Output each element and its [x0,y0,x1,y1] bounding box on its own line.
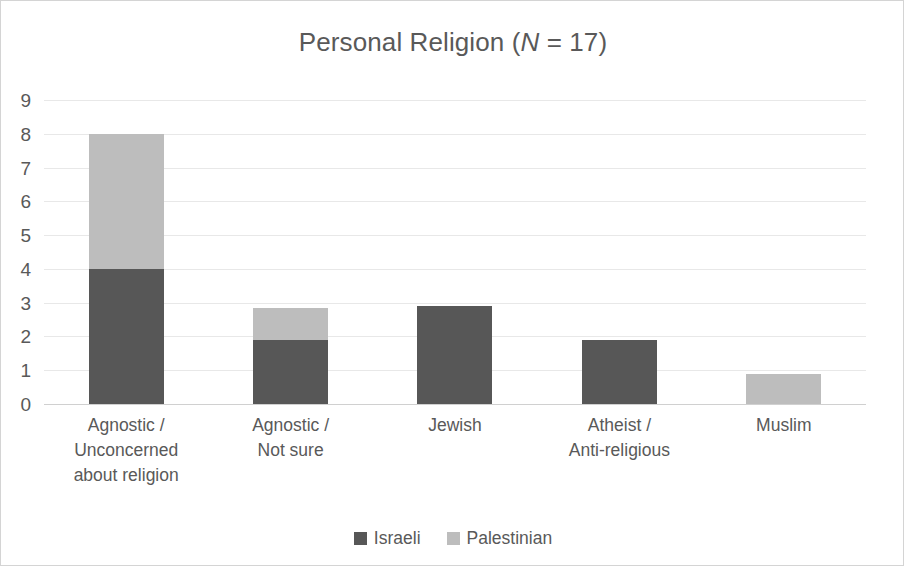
y-axis-tick-label: 5 [1,226,31,245]
chart-title: Personal Religion (N = 17) [1,27,904,58]
axis-baseline [44,404,866,405]
y-axis-tick-label: 8 [1,125,31,144]
bar-segment-palestinian[interactable] [746,374,821,404]
legend-swatch-icon [354,532,367,545]
bar-group [208,100,372,404]
bar-segment-israeli[interactable] [89,269,164,404]
chart-title-italic-n: N [520,27,539,57]
bar-group [44,100,208,404]
y-axis-tick-label: 2 [1,327,31,346]
chart-title-lead: Personal Religion ( [299,27,521,57]
y-axis-tick-label: 9 [1,91,31,110]
bar-segment-palestinian[interactable] [89,134,164,269]
chart-title-tail: = 17) [539,27,607,57]
bar-group [537,100,701,404]
bar-stack[interactable] [417,306,492,404]
bar-segment-israeli[interactable] [417,306,492,404]
x-axis-label-line: Not sure [191,438,391,463]
legend-label: Israeli [374,529,421,547]
y-axis-tick-label: 4 [1,260,31,279]
y-axis-tick-label: 7 [1,159,31,178]
x-axis-label: Muslim [684,413,884,438]
legend-swatch-icon [447,532,460,545]
y-axis-tick-label: 0 [1,395,31,414]
bar-group [702,100,866,404]
bar-segment-israeli[interactable] [253,340,328,404]
x-axis-label-line: about religion [26,463,226,488]
bar-stack[interactable] [89,134,164,404]
legend-entry[interactable]: Israeli [354,529,421,547]
bar-segment-israeli[interactable] [582,340,657,404]
y-axis-tick-label: 3 [1,294,31,313]
legend-entry[interactable]: Palestinian [447,529,553,547]
bar-segment-palestinian[interactable] [253,308,328,340]
y-axis-tick-label: 6 [1,192,31,211]
x-axis-label-line: Anti-religious [519,438,719,463]
bar-stack[interactable] [746,374,821,404]
bar-stack[interactable] [253,308,328,404]
chart-container: Personal Religion (N = 17) 9876543210 Ag… [0,0,904,566]
bar-group [373,100,537,404]
bar-stack[interactable] [582,340,657,404]
y-axis-tick-label: 1 [1,361,31,380]
chart-legend: IsraeliPalestinian [1,529,904,547]
x-axis-label-line: Muslim [684,413,884,438]
legend-label: Palestinian [467,529,553,547]
